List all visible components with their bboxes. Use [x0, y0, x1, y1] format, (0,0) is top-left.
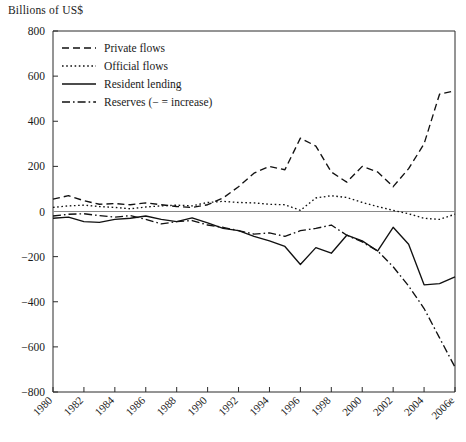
series-line-official-flows [53, 196, 455, 220]
x-tick-label: 1982 [61, 394, 85, 418]
y-tick-label: 200 [28, 160, 46, 172]
y-tick-label: 0 [39, 206, 45, 218]
x-tick-label: 1998 [309, 394, 333, 418]
legend-label-0: Private flows [104, 42, 166, 54]
y-tick-label: −600 [21, 341, 45, 353]
x-tick-label: 2002 [371, 394, 395, 418]
legend-label-3: Reserves (− = increase) [104, 96, 213, 109]
x-tick-label: 1988 [154, 394, 178, 418]
y-tick-label: 400 [28, 115, 46, 127]
series-line-resident-lending [53, 216, 455, 285]
x-tick-label: 1994 [247, 394, 271, 418]
x-tick-label: 2006e [429, 394, 457, 422]
legend-label-2: Resident lending [104, 78, 182, 91]
y-tick-label: −200 [21, 251, 45, 263]
chart-container: Billions of US$ 8006004002000−200−400−60… [0, 0, 466, 442]
x-tick-label: 2000 [340, 394, 364, 418]
y-tick-label: −800 [21, 386, 45, 398]
x-tick-label: 1992 [216, 394, 240, 418]
legend-label-1: Official flows [104, 60, 169, 72]
y-tick-label: 800 [28, 25, 46, 37]
x-tick-label: 1990 [185, 394, 209, 418]
x-tick-label: 2004 [401, 394, 425, 418]
line-chart: 8006004002000−200−400−600−80019801982198… [0, 0, 466, 442]
y-tick-label: −400 [21, 296, 45, 308]
x-tick-label: 1996 [278, 394, 302, 418]
series-line-private-flows [53, 91, 455, 208]
x-tick-label: 1986 [123, 394, 147, 418]
y-tick-label: 600 [28, 70, 46, 82]
x-tick-label: 1984 [92, 394, 116, 418]
